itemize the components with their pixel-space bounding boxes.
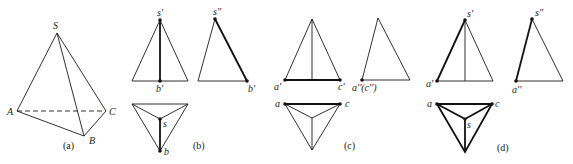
- label-B: B: [89, 135, 95, 146]
- panel-b: s' b' s'' b' s b (b): [132, 6, 256, 157]
- edge-SB: [57, 33, 84, 136]
- label-S: S: [53, 20, 58, 31]
- label-c-prime: c': [338, 81, 345, 92]
- label-c: c: [345, 98, 350, 109]
- panel-d: s' a' s'' a'' a c s (d): [426, 7, 563, 154]
- label-c-d: c: [495, 98, 500, 109]
- caption-d: (d): [497, 142, 509, 154]
- pyramid-projection-diagram: S A C B (a) s' b' s'' b': [0, 0, 573, 164]
- panel-c-front-view: a' c': [274, 19, 345, 92]
- panel-d-side-view: s'' a'': [512, 7, 563, 95]
- edge-AB: [17, 111, 84, 136]
- label-a-prime: a': [274, 81, 282, 92]
- label-A: A: [6, 106, 14, 117]
- panel-d-top-view: a c s: [427, 98, 500, 152]
- label-s-d: s: [467, 119, 471, 130]
- highlighted-line-sa-side: [516, 19, 532, 81]
- edge-SA: [17, 33, 57, 111]
- panel-d-front-view: s' a': [426, 8, 493, 89]
- label-s-double-prime: s'': [213, 6, 222, 17]
- highlighted-line-sa: [437, 20, 465, 81]
- label-s-prime: s': [157, 7, 164, 18]
- label-s-double-prime-d: s'': [535, 7, 544, 18]
- label-a-c-double-prime: a''(c''): [352, 82, 377, 94]
- highlighted-line-sb-side: [215, 19, 247, 81]
- panel-b-front-view: s' b': [132, 7, 188, 94]
- edge-BC: [84, 111, 106, 136]
- panel-b-side-view: s'' b': [198, 6, 256, 94]
- label-b-prime-side: b': [248, 83, 256, 94]
- label-a: a: [275, 98, 280, 109]
- panel-b-top-view: s b: [132, 104, 188, 157]
- label-a-double-prime-d: a'': [512, 84, 522, 95]
- caption-a: (a): [63, 140, 74, 152]
- caption-c: (c): [344, 140, 355, 152]
- label-a-d: a: [427, 98, 432, 109]
- edge-SC: [57, 33, 106, 111]
- label-s: s: [163, 118, 167, 129]
- label-b: b: [164, 146, 169, 157]
- label-C: C: [109, 106, 116, 117]
- label-s-prime-d: s': [467, 8, 474, 19]
- panel-c: a' c' a''(c'') a c (c): [274, 18, 410, 152]
- panel-c-side-view: a''(c''): [352, 18, 410, 94]
- panel-c-top-view: a c: [275, 98, 350, 150]
- label-a-prime-d: a': [426, 78, 434, 89]
- caption-b: (b): [193, 140, 205, 152]
- label-b-prime: b': [156, 83, 164, 94]
- panel-a-pyramid: S A C B (a): [6, 20, 116, 152]
